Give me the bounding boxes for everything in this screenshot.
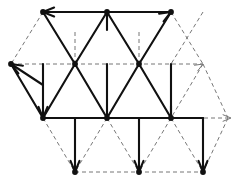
triangular-edge-e8 [43, 118, 75, 172]
honeycomb-edge-b1-c1 [75, 64, 107, 118]
triangular-edge-e9 [107, 118, 139, 172]
lattice-vertex [168, 9, 174, 15]
solid-arrowheads [11, 8, 208, 173]
triangular-edge-d8 [75, 118, 107, 172]
honeycomb-edge-b2-c2 [139, 64, 171, 118]
honeycomb-edge-a1-b1 [43, 12, 75, 64]
honeycomb-edge-b1-c0 [43, 64, 75, 118]
honeycomb-layer [11, 12, 203, 172]
lattice-vertex [40, 115, 46, 121]
ah-right-upper-icon [194, 64, 203, 71]
triangular-edge-e7 [203, 64, 228, 118]
honeycomb-edge-a2-b2 [107, 12, 139, 64]
lattice-vertex [136, 61, 142, 67]
lattice-vertex [104, 9, 110, 15]
lattice-vertex [136, 169, 142, 175]
triangular-edge-d1 [11, 12, 43, 64]
lattice-vertex [200, 169, 206, 175]
dashed-arrowheads [194, 64, 231, 121]
triangular-edge-d9 [139, 118, 171, 172]
triangular-edge-d7 [171, 64, 203, 118]
honeycomb-edge-a2-b1 [75, 12, 107, 64]
honeycomb-edge-b2-c1 [107, 64, 139, 118]
lattice-vertex [72, 169, 78, 175]
lattice-vertex [72, 61, 78, 67]
lattice-vertex [8, 61, 14, 67]
triangular-edge-e10 [171, 118, 203, 172]
lattice-vertex [168, 115, 174, 121]
honeycomb-edge-b0-arrow-stem [11, 64, 43, 85]
lattice-figure [0, 0, 240, 185]
lattice-canvas [0, 0, 240, 185]
honeycomb-edge-b0-c0 [11, 64, 43, 118]
lattice-vertex [40, 9, 46, 15]
lattice-vertex [104, 115, 110, 121]
